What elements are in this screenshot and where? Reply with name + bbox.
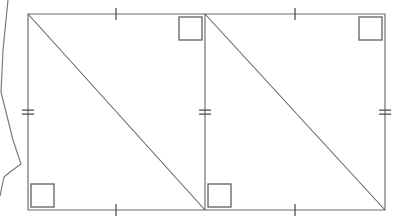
- left-diagonal: [28, 14, 205, 210]
- right-angle-bottom-middle: [208, 184, 231, 207]
- right-angle-top-right: [359, 17, 382, 40]
- right-angle-bottom-left: [31, 184, 54, 207]
- right-diagonal: [205, 14, 385, 210]
- right-angle-top-middle: [179, 17, 202, 40]
- geometry-diagram-canvas: [0, 0, 405, 221]
- geometry-svg: [0, 0, 405, 221]
- double-tick-group: [22, 110, 391, 114]
- outer-rectangle: [28, 14, 385, 210]
- clipped-polygon-fragment-left-edge: [0, 0, 21, 196]
